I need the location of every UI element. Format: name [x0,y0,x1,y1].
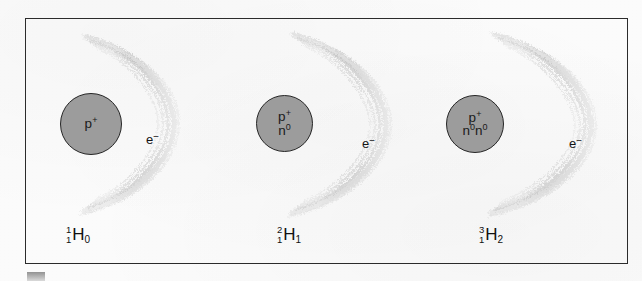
nucleus-tritium: p+ n0n0 [446,95,504,153]
isotope-label-deuterium: 2 1 H1 [277,224,301,245]
electron-label-tritium: e− [569,135,582,151]
isotope-label-protium: 1 1 H0 [66,224,90,245]
atomic-number: 1 [66,235,71,245]
neutron-number: 0 [85,234,91,245]
element-symbol: H [72,225,84,244]
nucleus-particle-proton: p+ [85,117,98,131]
neutron-number: 2 [498,234,504,245]
isotope-label-tritium: 3 1 H2 [479,224,503,245]
scanned-page: p+ e− 1 1 H0 [0,0,642,281]
mass-number: 3 [479,225,484,235]
element-symbol: H [485,225,497,244]
atomic-number: 1 [479,235,484,245]
isotope-mass-atomic-numbers: 3 1 [479,225,484,245]
nucleus-deuterium: p+ n0 [256,95,313,152]
mass-number: 1 [66,225,71,235]
nucleus-particle-neutron: n0 [278,124,291,138]
neutron-number: 1 [296,234,302,245]
mass-number: 2 [277,225,282,235]
figure-frame: p+ e− 1 1 H0 [25,18,628,264]
nucleus-particle-neutrons: n0n0 [462,124,487,138]
cropped-caption-mark [27,272,45,281]
atom-deuterium: p+ n0 e− 2 1 H1 [234,19,434,265]
electron-label-protium: e− [146,131,159,147]
nucleus-protium: p+ [60,93,122,155]
atom-protium: p+ e− 1 1 H0 [34,19,234,265]
element-symbol: H [283,225,295,244]
atomic-number: 1 [277,235,282,245]
atom-tritium: p+ n0n0 e− 3 1 H2 [429,19,629,265]
isotope-mass-atomic-numbers: 1 1 [66,225,71,245]
isotope-mass-atomic-numbers: 2 1 [277,225,282,245]
electron-label-deuterium: e− [362,135,375,151]
